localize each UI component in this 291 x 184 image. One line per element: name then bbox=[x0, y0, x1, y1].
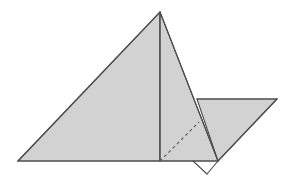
geometric-figure: Folded paper geometric figure A large sh… bbox=[0, 0, 291, 184]
